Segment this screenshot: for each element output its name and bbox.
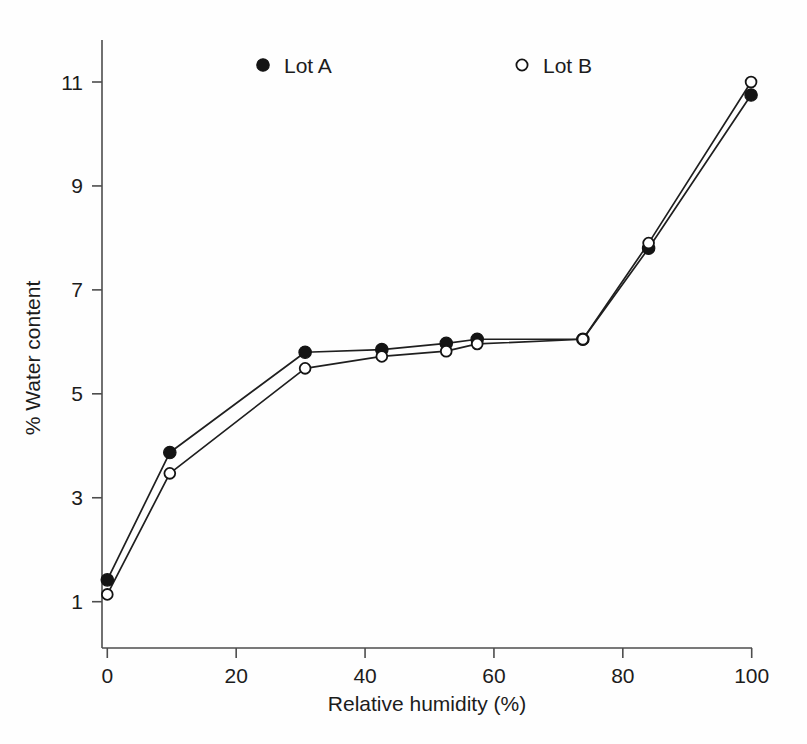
x-axis-ticks: 020406080100 (101, 648, 769, 687)
y-tick-label: 1 (71, 590, 83, 613)
y-tick-label: 11 (61, 71, 83, 94)
x-tick-label: 0 (101, 664, 113, 687)
data-point-marker (376, 351, 387, 362)
x-axis-title: Relative humidity (%) (328, 692, 526, 715)
legend-marker-lot-b-icon (516, 59, 527, 70)
y-axis-title: % Water content (21, 281, 44, 436)
series-line (107, 82, 751, 594)
data-point-marker (643, 238, 654, 249)
series-layer (101, 77, 757, 600)
data-point-marker (472, 339, 483, 350)
y-tick-label: 3 (71, 486, 83, 509)
y-tick-label: 7 (71, 278, 83, 301)
line-chart-canvas: 1357911 020406080100 Relative humidity (… (0, 0, 807, 744)
data-point-marker (102, 589, 113, 600)
data-point-marker (101, 574, 113, 586)
x-tick-label: 100 (734, 664, 769, 687)
data-point-marker (745, 89, 757, 101)
x-tick-label: 20 (225, 664, 248, 687)
y-tick-label: 9 (71, 174, 83, 197)
legend: Lot A Lot B (257, 54, 592, 77)
data-point-marker (299, 346, 311, 358)
x-tick-label: 60 (482, 664, 505, 687)
data-point-marker (300, 363, 311, 374)
legend-label-lot-b: Lot B (543, 54, 592, 77)
data-point-marker (164, 468, 175, 479)
data-point-marker (164, 446, 176, 458)
legend-marker-lot-a-icon (257, 59, 269, 71)
x-tick-label: 40 (353, 664, 376, 687)
series-lot-a (107, 95, 751, 580)
series-lot-b (107, 82, 751, 594)
series-line (107, 95, 751, 580)
chart-figure: 1357911 020406080100 Relative humidity (… (0, 0, 807, 744)
markers-lot-a (101, 89, 757, 586)
x-tick-label: 80 (611, 664, 634, 687)
data-point-marker (577, 334, 588, 345)
legend-label-lot-a: Lot A (284, 54, 332, 77)
data-point-marker (746, 77, 757, 88)
data-point-marker (441, 346, 452, 357)
y-tick-label: 5 (71, 382, 83, 405)
y-axis-ticks: 1357911 (61, 71, 102, 614)
markers-lot-b (102, 77, 757, 600)
